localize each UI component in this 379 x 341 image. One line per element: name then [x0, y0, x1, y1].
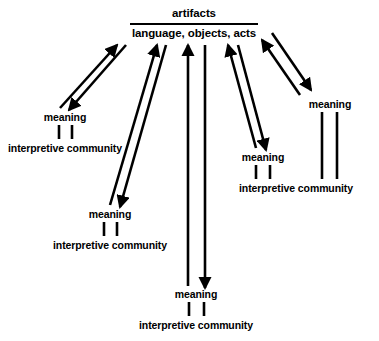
meaning-right-upper: meaning — [309, 99, 351, 110]
diagram-canvas: artifacts language, objects, acts meanin… — [0, 0, 379, 341]
interpretive-community-right: interpretive community — [239, 183, 353, 194]
center-node-title: artifacts — [172, 8, 216, 20]
interpretive-community-left-upper: interpretive community — [8, 143, 122, 154]
meaning-left-upper: meaning — [44, 112, 86, 123]
meaning-right-middle: meaning — [242, 152, 284, 163]
meaning-left-lower: meaning — [89, 209, 131, 220]
interpretive-community-bottom-center: interpretive community — [139, 320, 253, 331]
meaning-bottom-center: meaning — [175, 289, 217, 300]
center-node-divider — [130, 23, 258, 25]
interpretive-community-left-lower: interpretive community — [53, 240, 167, 251]
center-node-subtitle: language, objects, acts — [132, 28, 256, 40]
